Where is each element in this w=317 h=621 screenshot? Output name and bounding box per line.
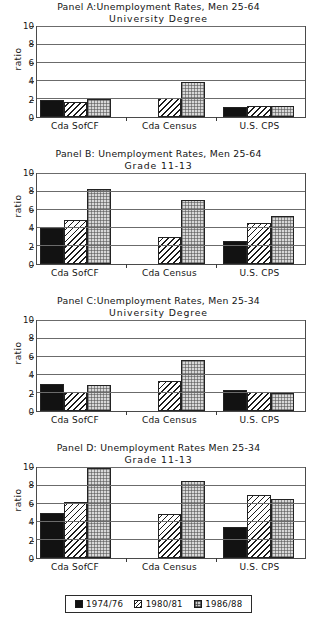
panel-b-gridline — [37, 227, 305, 228]
panel-b-gridline — [37, 191, 305, 192]
panel-c-x-label-cda-sofcf: Cda SofCF — [51, 415, 99, 426]
bar-d-cda-sofcf-1980-81 — [64, 502, 88, 558]
bar-d-cda-sofcf-1986-88 — [87, 468, 111, 558]
panel-a-title: Panel A:Unemployment Rates, Men 25-64 Un… — [0, 0, 317, 24]
panel-a-gridline — [37, 44, 305, 45]
panel-c-y-tick-mark — [30, 375, 34, 376]
legend-item-1974-76: 1974/76 — [75, 599, 124, 609]
panel-b-x-label-cda-census: Cda Census — [142, 268, 197, 279]
panel-a: Panel A:Unemployment Rates, Men 25-64 Un… — [0, 0, 317, 147]
panel-c-x-axis-labels: Cda SofCFCda CensusU.S. CPS — [0, 415, 317, 429]
diagonal-hatch-swatch — [134, 600, 142, 608]
panel-b-y-tick-mark — [30, 173, 34, 174]
panel-b-title-line2: Grade 11-13 — [0, 160, 317, 172]
bar-c-cda-census-1986-88 — [181, 360, 205, 411]
panel-d-gridline — [37, 485, 305, 486]
panel-c-x-label-cda-census: Cda Census — [142, 415, 197, 426]
panel-b-y-tick-mark — [30, 265, 34, 266]
panel-a-x-label-u-s-cps: U.S. CPS — [239, 121, 279, 132]
panel-c-y-axis-ticks: 0246810 — [0, 320, 34, 412]
legend-item-1980-81: 1980/81 — [134, 599, 183, 609]
bar-b-u-s-cps-1986-88 — [271, 216, 295, 264]
panel-a-plot: ratio 0246810 — [0, 26, 317, 118]
bar-c-cda-sofcf-1974-76 — [40, 384, 64, 411]
panel-d-plot: ratio 0246810 — [0, 467, 317, 559]
panel-a-y-axis-ticks: 0246810 — [0, 26, 34, 118]
panel-d-plot-area — [36, 467, 306, 559]
panel-c-plot-area — [36, 320, 306, 412]
panel-c: Panel C:Unemployment Rates, Men 25-34 Un… — [0, 294, 317, 441]
panel-b-x-axis-labels: Cda SofCFCda CensusU.S. CPS — [0, 268, 317, 282]
unemployment-rate-ratio-figure: Panel A:Unemployment Rates, Men 25-64 Un… — [0, 0, 317, 621]
bar-b-u-s-cps-1980-81 — [247, 223, 271, 264]
panel-c-title-line2: University Degree — [0, 307, 317, 319]
panel-a-gridline — [37, 80, 305, 81]
bar-c-cda-sofcf-1980-81 — [64, 392, 88, 411]
bar-d-cda-census-1986-88 — [181, 481, 205, 558]
bar-c-cda-sofcf-1986-88 — [87, 385, 111, 411]
panel-a-bars — [37, 27, 305, 117]
bar-d-u-s-cps-1980-81 — [247, 495, 271, 558]
panel-d-y-tick-mark — [30, 467, 34, 468]
panel-a-y-tick-mark — [30, 44, 34, 45]
legend-box: 1974/761980/811986/88 — [65, 595, 253, 613]
panel-c-y-tick-mark — [30, 412, 34, 413]
panel-d-gridline — [37, 467, 305, 468]
panel-a-gridline — [37, 26, 305, 27]
panel-d-x-label-u-s-cps: U.S. CPS — [239, 562, 279, 573]
bar-b-cda-sofcf-1974-76 — [40, 228, 64, 264]
panel-d-gridline — [37, 521, 305, 522]
panel-a-plot-area — [36, 26, 306, 118]
panel-c-bars — [37, 321, 305, 411]
bar-d-u-s-cps-1986-88 — [271, 499, 295, 558]
panel-d-gridline — [37, 503, 305, 504]
panel-d-title: Panel D: Unemployment Rates Men 25-34 Gr… — [0, 441, 317, 465]
panel-a-y-tick-mark — [30, 26, 34, 27]
panel-b-x-label-cda-sofcf: Cda SofCF — [51, 268, 99, 279]
panel-a-title-line2: University Degree — [0, 13, 317, 25]
panel-d-y-tick-mark — [30, 541, 34, 542]
panel-c-y-tick-mark — [30, 338, 34, 339]
panel-b-gridline — [37, 209, 305, 210]
panel-c-x-label-u-s-cps: U.S. CPS — [239, 415, 279, 426]
panel-a-gridline — [37, 62, 305, 63]
bar-a-u-s-cps-1974-76 — [223, 107, 247, 117]
panel-b: Panel B: Unemployment Rates, Men 25-64 G… — [0, 147, 317, 294]
panel-b-y-tick-mark — [30, 247, 34, 248]
panel-d-x-label-cda-census: Cda Census — [142, 562, 197, 573]
panel-d-bars — [37, 468, 305, 558]
dotted-grey-swatch — [194, 600, 202, 608]
panel-d-x-label-cda-sofcf: Cda SofCF — [51, 562, 99, 573]
panel-a-y-tick-mark — [30, 118, 34, 119]
panel-b-gridline — [37, 245, 305, 246]
panel-a-y-tick-mark — [30, 63, 34, 64]
panel-a-y-tick-mark — [30, 100, 34, 101]
panel-b-y-axis-ticks: 0246810 — [0, 173, 34, 265]
legend: 1974/761980/811986/88 — [0, 595, 317, 613]
panel-c-y-tick-mark — [30, 394, 34, 395]
panel-b-bars — [37, 174, 305, 264]
panel-d-y-axis-ticks: 0246810 — [0, 467, 34, 559]
bar-a-cda-census-1986-88 — [181, 82, 205, 117]
bar-d-u-s-cps-1974-76 — [223, 527, 247, 559]
panel-b-y-tick-mark — [30, 228, 34, 229]
bar-c-u-s-cps-1980-81 — [247, 392, 271, 411]
panel-c-gridline — [37, 338, 305, 339]
bar-b-cda-census-1980-81 — [158, 237, 182, 264]
panel-c-gridline — [37, 392, 305, 393]
bar-a-cda-sofcf-1986-88 — [87, 99, 111, 117]
panel-b-gridline — [37, 173, 305, 174]
panel-d-y-tick-mark — [30, 559, 34, 560]
panel-b-y-tick-mark — [30, 191, 34, 192]
panel-b-plot-area — [36, 173, 306, 265]
panel-a-x-axis-labels: Cda SofCFCda CensusU.S. CPS — [0, 121, 317, 135]
panel-b-plot: ratio 0246810 — [0, 173, 317, 265]
panel-d-y-tick-mark — [30, 485, 34, 486]
legend-label: 1986/88 — [205, 599, 242, 609]
panel-c-gridline — [37, 356, 305, 357]
panel-d-gridline — [37, 539, 305, 540]
panel-a-x-label-cda-sofcf: Cda SofCF — [51, 121, 99, 132]
panel-a-gridline — [37, 98, 305, 99]
bar-c-cda-census-1980-81 — [158, 381, 182, 411]
legend-label: 1980/81 — [146, 599, 183, 609]
